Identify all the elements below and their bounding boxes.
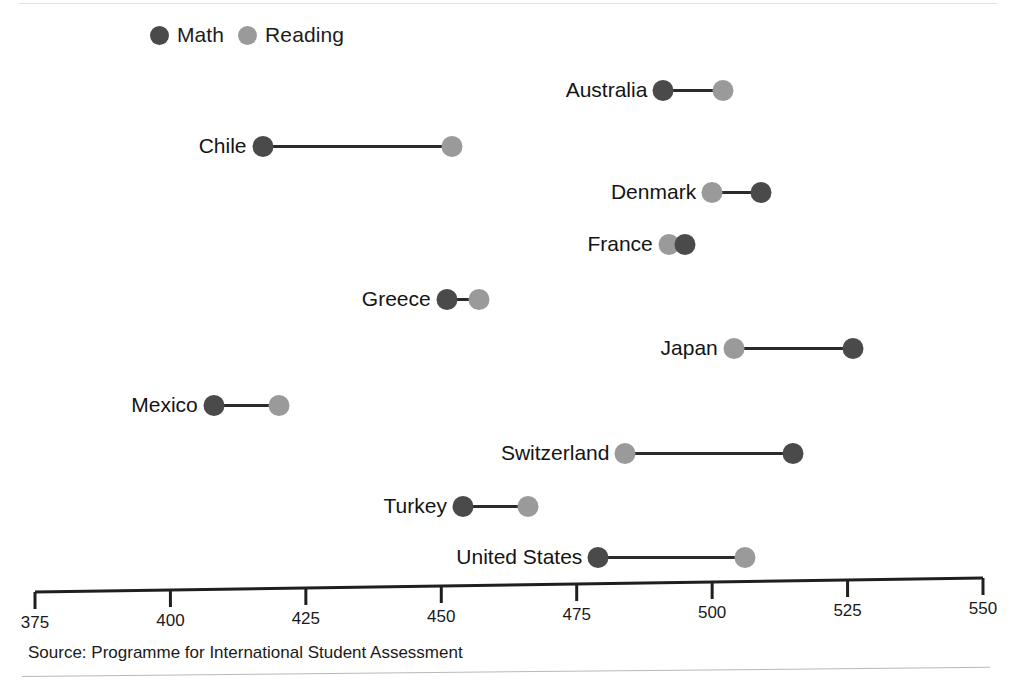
reading-dot[interactable]: [268, 395, 289, 416]
math-dot[interactable]: [653, 80, 674, 101]
dumbbell-chart: Math Reading AustraliaChileDenmarkFrance…: [0, 0, 1012, 693]
math-dot[interactable]: [588, 547, 609, 568]
chart-row: Greece: [0, 282, 1012, 316]
axis-tick-label: 375: [21, 613, 49, 633]
category-label: Switzerland: [501, 436, 610, 470]
reading-dot[interactable]: [469, 289, 490, 310]
reading-dot[interactable]: [702, 182, 723, 203]
category-label: Denmark: [611, 175, 696, 209]
reading-dot[interactable]: [712, 80, 733, 101]
chart-row: Australia: [0, 73, 1012, 107]
category-label: Australia: [566, 73, 648, 107]
math-dot[interactable]: [675, 234, 696, 255]
axis-tick-label: 550: [969, 599, 997, 619]
chart-row: Turkey: [0, 489, 1012, 523]
math-dot[interactable]: [252, 136, 273, 157]
reading-dot[interactable]: [442, 136, 463, 157]
math-dot[interactable]: [203, 395, 224, 416]
chart-row: Denmark: [0, 175, 1012, 209]
axis-tick-label: 425: [292, 609, 320, 629]
connector-line: [598, 556, 744, 559]
plot-area: AustraliaChileDenmarkFranceGreeceJapanMe…: [0, 0, 1012, 600]
reading-dot[interactable]: [734, 547, 755, 568]
math-dot[interactable]: [783, 443, 804, 464]
connector-line: [625, 452, 793, 455]
category-label: Turkey: [384, 489, 447, 523]
category-label: Mexico: [131, 388, 198, 422]
category-label: Chile: [199, 129, 247, 163]
chart-row: Japan: [0, 331, 1012, 365]
axis-tick-label: 525: [833, 601, 861, 621]
axis-tick-label: 500: [698, 603, 726, 623]
category-label: Japan: [661, 331, 718, 365]
reading-dot[interactable]: [723, 338, 744, 359]
category-label: Greece: [362, 282, 431, 316]
axis-tick-label: 475: [563, 605, 591, 625]
chart-row: Chile: [0, 129, 1012, 163]
axis-tick-label: 400: [156, 611, 184, 631]
chart-row: Switzerland: [0, 436, 1012, 470]
bottom-divider: [22, 667, 990, 677]
math-dot[interactable]: [452, 496, 473, 517]
source-note: Source: Programme for International Stud…: [28, 643, 463, 663]
reading-dot[interactable]: [615, 443, 636, 464]
math-dot[interactable]: [842, 338, 863, 359]
category-label: United States: [456, 540, 582, 574]
connector-line: [263, 145, 453, 148]
math-dot[interactable]: [436, 289, 457, 310]
chart-row: United States: [0, 540, 1012, 574]
x-axis: 375400425450475500525550: [0, 570, 1012, 630]
math-dot[interactable]: [750, 182, 771, 203]
connector-line: [734, 347, 853, 350]
reading-dot[interactable]: [517, 496, 538, 517]
category-label: France: [587, 227, 652, 261]
axis-tick-label: 450: [427, 607, 455, 627]
chart-row: France: [0, 227, 1012, 261]
chart-row: Mexico: [0, 388, 1012, 422]
